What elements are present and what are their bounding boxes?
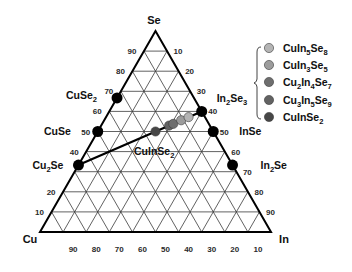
right-axis-tick-label: 10 xyxy=(174,47,183,56)
legend-label: CuIn3Se5 xyxy=(283,59,328,74)
ternary-compound-points xyxy=(151,113,193,137)
bottom-axis-tick-label: 80 xyxy=(92,245,101,254)
vertex-label-left: Cu xyxy=(23,233,38,245)
legend-marker-icon xyxy=(264,77,273,86)
grid-line xyxy=(109,91,190,232)
right-axis-tick-label: 40 xyxy=(208,107,217,116)
legend-label: Cu3In5Se9 xyxy=(283,94,332,109)
grid-lines xyxy=(52,51,260,232)
legend-entry: CuIn5Se8 xyxy=(264,42,327,57)
phase-label-in2se3: In2Se3 xyxy=(217,92,248,107)
right-axis-tick-label: 90 xyxy=(266,208,275,217)
phase-point-cuse xyxy=(92,126,103,137)
legend-marker-icon xyxy=(264,95,273,104)
vertex-label-top: Se xyxy=(147,14,160,26)
grid-line xyxy=(52,212,64,232)
right-axis-tick-label: 50 xyxy=(220,128,229,137)
legend-marker-icon xyxy=(264,112,273,121)
left-axis-tick-label: 90 xyxy=(127,47,136,56)
phase-point-cuse2 xyxy=(112,92,123,103)
phase-label-cu2se: Cu2Se xyxy=(32,159,63,174)
legend-entry: CuIn3Se5 xyxy=(264,59,327,74)
grid-line xyxy=(63,51,167,232)
phase-point-in2se3 xyxy=(196,106,207,117)
compound-point-cuinse2 xyxy=(151,127,160,136)
right-axis-tick-label: 80 xyxy=(254,188,263,197)
annotation-label: CuInSe2 xyxy=(134,145,174,160)
left-axis-tick-label: 10 xyxy=(35,208,44,217)
phase-label-cuse: CuSe xyxy=(44,125,71,137)
left-axis-tick-label: 50 xyxy=(81,128,90,137)
phase-label-inse: InSe xyxy=(239,125,261,137)
legend-marker-icon xyxy=(264,43,273,52)
legend-entry: CuInSe2 xyxy=(264,111,323,126)
legend-marker-icon xyxy=(264,60,273,69)
bottom-axis-tick-label: 40 xyxy=(184,245,193,254)
legend-entry: Cu2In4Se7 xyxy=(264,76,331,91)
legend: CuIn5Se8CuIn3Se5Cu2In4Se7Cu3In5Se9CuInSe… xyxy=(254,42,332,126)
grid-line xyxy=(202,172,237,232)
vertex-label-right: In xyxy=(279,233,289,245)
phase-label-in2se: In2Se xyxy=(261,159,288,174)
legend-entry: Cu3In5Se9 xyxy=(264,94,331,109)
right-axis-tick-label: 60 xyxy=(231,148,240,157)
right-axis-tick-label: 30 xyxy=(197,87,206,96)
right-axis-tick-label: 20 xyxy=(185,67,194,76)
bottom-axis-tick-label: 10 xyxy=(253,245,262,254)
phase-point-inse xyxy=(208,126,219,137)
grid-line xyxy=(248,212,260,232)
bottom-axis-tick-label: 70 xyxy=(115,245,124,254)
grid-line xyxy=(144,51,248,232)
legend-label: CuIn5Se8 xyxy=(283,42,328,57)
bottom-axis-tick-label: 90 xyxy=(69,245,78,254)
right-axis-tick-label: 70 xyxy=(243,168,252,177)
legend-label: Cu2In4Se7 xyxy=(283,76,332,91)
phase-point-in2se xyxy=(227,160,238,171)
left-axis-tick-label: 20 xyxy=(47,188,56,197)
compound-point-cuin5se8 xyxy=(184,113,193,122)
legend-brace xyxy=(254,47,261,119)
left-axis-tick-label: 80 xyxy=(116,67,125,76)
bottom-axis-tick-label: 50 xyxy=(161,245,170,254)
bottom-axis-tick-label: 30 xyxy=(207,245,216,254)
phase-point-cu2se xyxy=(73,160,84,171)
bottom-axis-tick-label: 20 xyxy=(230,245,239,254)
legend-label: CuInSe2 xyxy=(283,111,323,126)
phase-label-cuse2: CuSe2 xyxy=(66,89,97,104)
grid-line xyxy=(75,172,110,232)
ternary-phase-diagram: 1020405060708090102030405060708090908070… xyxy=(0,0,352,272)
bottom-axis-tick-label: 60 xyxy=(138,245,147,254)
left-axis-tick-label: 60 xyxy=(93,107,102,116)
left-axis-tick-label: 40 xyxy=(70,148,79,157)
